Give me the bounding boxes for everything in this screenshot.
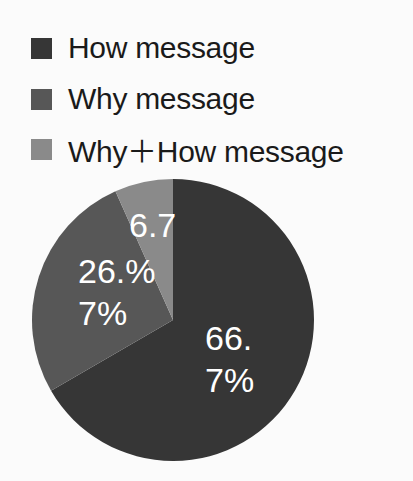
slice-label-why-line1: 26.%: [78, 252, 156, 290]
slice-label-how-line2: 7%: [205, 361, 254, 399]
slice-label-how-line1: 66.: [205, 319, 252, 357]
slice-label-why-how: 6.7: [129, 206, 176, 244]
slice-label-why-line2: 7%: [78, 294, 127, 332]
pie-chart: 66. 7% 26.% 7% 6.7: [0, 0, 413, 481]
